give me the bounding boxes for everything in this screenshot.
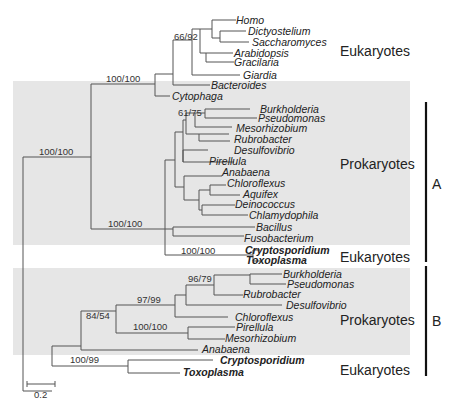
support-label: 100/100 [133, 321, 167, 332]
support-label: 61/75 [178, 107, 202, 118]
taxon-label: Cytophaga [172, 90, 223, 102]
taxon-label: Toxoplasma [183, 366, 244, 378]
group-label-eukaryotes: Eukaryotes [340, 249, 410, 265]
taxon-label: Chlamydophila [249, 209, 319, 221]
group-label-prokaryotes: Prokaryotes [340, 156, 415, 172]
clade-label-b: B [432, 313, 441, 329]
support-label: 97/99 [137, 294, 161, 305]
taxon-label: Toxoplasma [246, 254, 307, 266]
support-label: 100/100 [181, 245, 215, 256]
phylogenetic-tree: 66/92 100/100 61/75 100/100 100/100 100/… [0, 0, 455, 403]
group-label-prokaryotes: Prokaryotes [340, 312, 415, 328]
taxon-label: Cryptosporidium [220, 354, 305, 366]
group-label-eukaryotes: Eukaryotes [340, 362, 410, 378]
support-label: 96/79 [188, 273, 212, 284]
taxon-label: Desulfovibrio [286, 299, 347, 311]
group-label-eukaryotes: Eukaryotes [340, 43, 410, 59]
clade-label-a: A [432, 176, 442, 192]
support-label: 66/92 [174, 31, 198, 42]
support-label: 100/100 [39, 146, 73, 157]
support-label: 100/99 [70, 354, 99, 365]
support-label: 100/100 [106, 73, 140, 84]
support-label: 84/54 [86, 310, 110, 321]
taxon-label: Fusobacterium [244, 232, 314, 244]
scale-bar-label: 0.2 [34, 389, 47, 400]
taxon-label: Gracilaria [234, 56, 279, 68]
support-label: 100/100 [108, 218, 142, 229]
